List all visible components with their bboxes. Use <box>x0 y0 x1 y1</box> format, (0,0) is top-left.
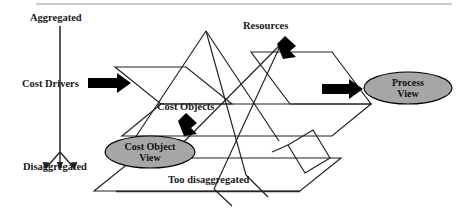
disaggregated-label: Disaggregated <box>23 161 87 172</box>
cost-object-view-label-line2: View <box>139 152 161 163</box>
process-view-node[interactable]: Process View <box>364 72 452 104</box>
too-disaggregated-label: Too disaggregated <box>168 174 250 185</box>
cost-objects-label: Cost Objects <box>157 101 214 112</box>
cost-drivers-label: Cost Drivers <box>22 78 79 89</box>
cost-object-view-node[interactable]: Cost Object View <box>105 136 195 168</box>
aggregated-label: Aggregated <box>30 12 82 23</box>
resources-label: Resources <box>243 20 288 31</box>
pyramid-planes-diagram: Process View Cost Object View Aggregated… <box>0 0 458 212</box>
process-view-label-line1: Process <box>392 77 424 88</box>
process-view-label-line2: View <box>397 88 419 99</box>
cost-object-view-label-line1: Cost Object <box>125 141 176 152</box>
